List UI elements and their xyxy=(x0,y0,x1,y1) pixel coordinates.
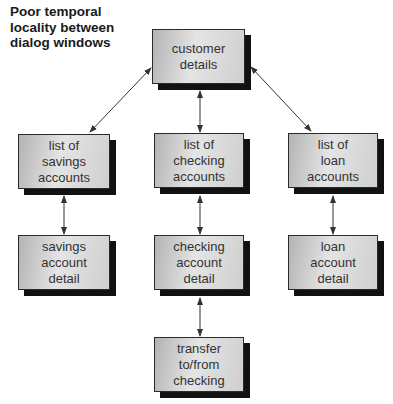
node-savings-detail: savings account detail xyxy=(18,235,110,290)
node-label: list of checking accounts xyxy=(173,137,225,185)
node-label: checking account detail xyxy=(173,239,224,287)
node-loan-list: list of loan accounts xyxy=(288,133,378,188)
arrow-customer-savings xyxy=(90,68,151,132)
node-label: savings account detail xyxy=(41,239,87,287)
node-transfer: transfer to/from checking xyxy=(154,337,244,392)
arrow-customer-loan xyxy=(251,67,311,131)
node-label: loan account detail xyxy=(310,239,356,287)
node-label: list of loan accounts xyxy=(307,137,359,185)
node-checking-detail: checking account detail xyxy=(154,235,244,290)
node-label: list of savings accounts xyxy=(38,138,90,186)
node-label: customer details xyxy=(172,41,225,73)
node-customer-details: customer details xyxy=(152,29,245,84)
node-label: transfer to/from checking xyxy=(173,341,224,389)
node-loan-detail: loan account detail xyxy=(288,235,378,290)
node-checking-list: list of checking accounts xyxy=(154,133,244,188)
node-savings-list: list of savings accounts xyxy=(18,134,110,189)
